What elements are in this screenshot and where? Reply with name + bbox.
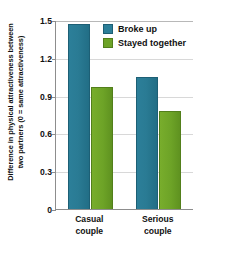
y-tick-label: 1.2 <box>26 54 52 64</box>
bar-casual-broke-up <box>68 24 90 209</box>
y-tick-label: 0.9 <box>26 92 52 102</box>
legend-label: Broke up <box>118 24 157 34</box>
bar-group-container <box>56 21 193 209</box>
y-axis-title-line1: Difference in physical attractiveness be… <box>6 23 15 181</box>
plot-area <box>55 21 193 210</box>
y-tickmark <box>52 210 56 211</box>
y-axis-tick-labels: 1.5 1.2 0.9 0.6 0.3 0 <box>26 0 52 259</box>
x-label-serious-couple: Serious couple <box>142 214 174 237</box>
y-tick-label: 0.3 <box>26 167 52 177</box>
bar-serious-stayed-together <box>159 111 181 209</box>
x-label-line1: Serious <box>142 214 174 224</box>
legend: Broke up Stayed together <box>103 24 186 48</box>
y-tick-label: 1.5 <box>26 16 52 26</box>
x-label-casual-couple: Casual couple <box>75 214 103 237</box>
x-label-line1: Casual <box>75 214 103 224</box>
x-label-line2: couple <box>75 226 103 236</box>
bar-chart-figure: Difference in physical attractiveness be… <box>0 0 242 259</box>
bar-serious-broke-up <box>136 77 158 209</box>
y-tick-label: 0 <box>26 205 52 215</box>
x-label-line2: couple <box>144 226 172 236</box>
legend-item-stayed-together: Stayed together <box>103 38 186 48</box>
legend-item-broke-up: Broke up <box>103 24 186 34</box>
x-axis-category-labels: Casual couple Serious couple <box>55 214 193 248</box>
y-tick-label: 0.6 <box>26 129 52 139</box>
legend-swatch-icon <box>103 38 113 48</box>
legend-swatch-icon <box>103 24 113 34</box>
y-axis-title-line2: two partners (0 = same attractiveness) <box>16 36 25 169</box>
bar-casual-stayed-together <box>91 87 113 209</box>
legend-label: Stayed together <box>118 38 186 48</box>
